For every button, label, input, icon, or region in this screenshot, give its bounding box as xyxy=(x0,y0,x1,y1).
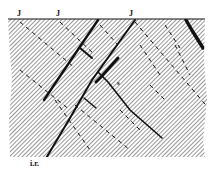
joint-label: J xyxy=(129,10,133,18)
joint-label: J xyxy=(56,10,60,18)
joint-label: J xyxy=(17,10,21,18)
s-label: s xyxy=(117,80,120,87)
hatched-rock-block xyxy=(8,19,207,157)
cross-section-diagram xyxy=(0,0,215,175)
ir-label: i.r. xyxy=(30,160,39,168)
